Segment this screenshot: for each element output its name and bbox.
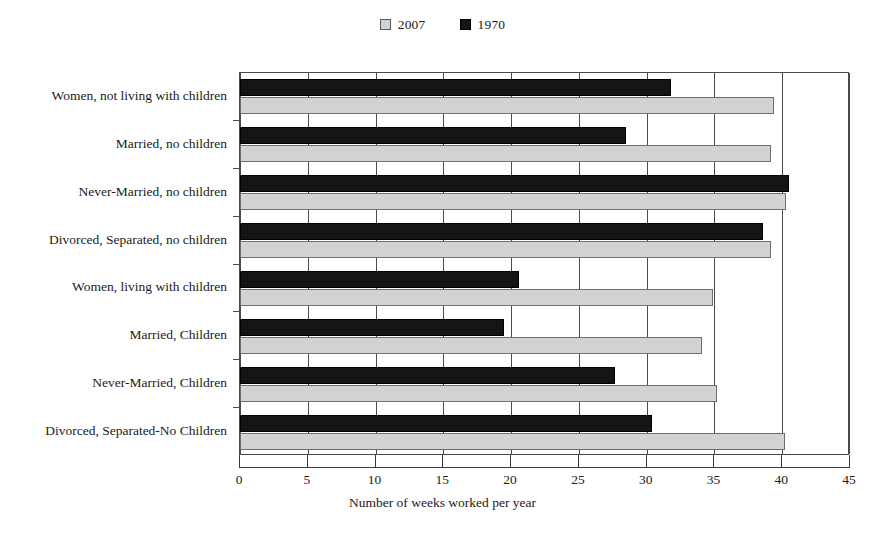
bar-1970: [240, 79, 671, 96]
bar-group: [240, 169, 850, 217]
x-tick-label-25: 25: [571, 472, 585, 488]
bar-group: [240, 360, 850, 408]
bar-group: [240, 121, 850, 169]
x-tick-label-5: 5: [303, 472, 310, 488]
bar-group: [240, 217, 850, 265]
bar-chart: 2007 1970 Women, not living with childre…: [0, 0, 885, 541]
category-label: Married, Children: [130, 328, 227, 343]
bar-1970: [240, 175, 789, 192]
legend-label-1970: 1970: [478, 18, 506, 32]
category-label: Never-Married, Children: [92, 376, 227, 391]
x-tick-35: [713, 455, 714, 468]
bar-1970: [240, 127, 626, 144]
x-axis-line: [239, 467, 850, 468]
bar-2007: [240, 289, 713, 306]
bar-1970: [240, 319, 504, 336]
x-tick-40: [781, 455, 782, 468]
category-axis-labels: Women, not living with childrenMarried, …: [0, 72, 233, 455]
x-tick-label-45: 45: [842, 472, 856, 488]
category-label: Women, not living with children: [51, 89, 227, 104]
bar-2007: [240, 97, 774, 114]
bar-2007: [240, 241, 771, 258]
x-tick-label-40: 40: [774, 472, 788, 488]
light-gray-swatch-icon: [380, 19, 391, 30]
x-axis-title: Number of weeks worked per year: [0, 495, 885, 511]
bar-1970: [240, 271, 519, 288]
chart-legend: 2007 1970: [0, 18, 885, 32]
x-tick-20: [510, 455, 511, 468]
x-tick-label-30: 30: [639, 472, 653, 488]
bar-2007: [240, 433, 785, 450]
legend-entry-1970: 1970: [460, 18, 506, 32]
x-tick-label-35: 35: [707, 472, 721, 488]
bar-2007: [240, 193, 786, 210]
plot-area: [239, 72, 849, 455]
x-tick-10: [375, 455, 376, 468]
bar-2007: [240, 145, 771, 162]
bar-1970: [240, 223, 763, 240]
bar-group: [240, 265, 850, 313]
x-tick-45: [849, 455, 850, 468]
bar-group: [240, 73, 850, 121]
bar-group: [240, 312, 850, 360]
x-tick-25: [578, 455, 579, 468]
bar-group: [240, 408, 850, 456]
category-label: Women, living with children: [72, 280, 227, 295]
black-swatch-icon: [460, 19, 471, 30]
bar-1970: [240, 367, 615, 384]
x-tick-label-20: 20: [503, 472, 517, 488]
category-label: Divorced, Separated-No Children: [45, 424, 227, 439]
x-tick-5: [307, 455, 308, 468]
bar-1970: [240, 415, 652, 432]
x-tick-label-10: 10: [368, 472, 382, 488]
category-label: Never-Married, no children: [78, 184, 227, 199]
x-tick-0: [239, 455, 240, 468]
x-tick-label-0: 0: [236, 472, 243, 488]
x-tick-15: [442, 455, 443, 468]
category-label: Divorced, Separated, no children: [49, 232, 227, 247]
x-tick-label-15: 15: [436, 472, 450, 488]
category-label: Married, no children: [116, 136, 227, 151]
x-tick-30: [646, 455, 647, 468]
bar-2007: [240, 385, 717, 402]
bar-bands: [240, 73, 850, 456]
bar-2007: [240, 337, 702, 354]
legend-entry-2007: 2007: [380, 18, 426, 32]
legend-label-2007: 2007: [398, 18, 426, 32]
